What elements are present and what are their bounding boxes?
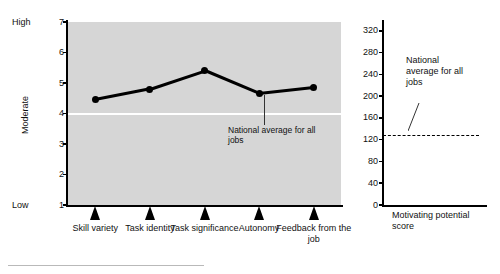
mps-y-tick-mark-40 xyxy=(379,182,384,184)
y-tick-mark-6 xyxy=(63,52,67,54)
y-tick-mark-5 xyxy=(63,82,67,84)
x-axis-label-feedback-from-the-job: Feedback from the job xyxy=(276,223,352,245)
data-point-marker xyxy=(146,86,153,93)
mps-y-tick-label-0: 0 xyxy=(350,201,378,210)
mps-y-tick-mark-200 xyxy=(379,95,384,97)
mps-national-average-dashed-line xyxy=(383,135,479,136)
y-tick-label-6: 6 xyxy=(50,48,64,57)
mps-y-tick-label-160: 160 xyxy=(350,113,378,122)
axis-anchor-high: High xyxy=(12,18,48,27)
x-axis-pointer-arrow xyxy=(145,206,155,220)
y-tick-label-4: 4 xyxy=(50,109,64,118)
y-tick-mark-3 xyxy=(63,143,67,145)
line-segment xyxy=(95,88,150,102)
job-characteristics-chart: 7654321 High Low Moderate Skill varietyT… xyxy=(0,0,350,274)
x-axis-pointer-arrow xyxy=(200,206,210,220)
mps-y-tick-mark-120 xyxy=(379,139,384,141)
mps-y-tick-label-120: 120 xyxy=(350,135,378,144)
y-tick-label-5: 5 xyxy=(50,79,64,88)
mps-y-tick-mark-160 xyxy=(379,117,384,119)
mps-x-axis-line xyxy=(382,205,487,207)
mps-y-tick-mark-0 xyxy=(379,204,384,206)
mps-x-axis-label: Motivating potential score xyxy=(392,210,476,232)
national-average-reference-line xyxy=(68,113,341,115)
y-tick-mark-2 xyxy=(63,174,67,176)
mps-y-axis-line xyxy=(382,20,384,207)
y-tick-label-7: 7 xyxy=(50,18,64,27)
mps-y-tick-label-200: 200 xyxy=(350,92,378,101)
mps-y-tick-mark-240 xyxy=(379,74,384,76)
y-tick-mark-1 xyxy=(63,204,67,206)
mps-y-tick-mark-280 xyxy=(379,52,384,54)
mps-y-tick-label-280: 280 xyxy=(350,48,378,57)
x-axis-pointer-arrow xyxy=(254,206,264,220)
callout-leader-line xyxy=(264,95,265,125)
plot-background xyxy=(68,22,341,205)
y-tick-mark-7 xyxy=(63,21,67,23)
line-segment xyxy=(149,69,205,90)
mps-y-tick-label-240: 240 xyxy=(350,70,378,79)
y-tick-label-3: 3 xyxy=(50,140,64,149)
y-tick-label-1: 1 xyxy=(50,201,64,210)
mps-y-tick-mark-320 xyxy=(379,30,384,32)
national-average-callout: National average for all jobs xyxy=(228,125,320,145)
footer-rule xyxy=(8,265,204,266)
mps-callout-leader-line xyxy=(408,103,420,131)
data-point-marker xyxy=(92,96,99,103)
mps-y-tick-mark-80 xyxy=(379,161,384,163)
y-tick-mark-4 xyxy=(63,113,67,115)
mps-y-tick-label-40: 40 xyxy=(350,179,378,188)
figure-root: 7654321 High Low Moderate Skill varietyT… xyxy=(0,0,500,274)
mps-national-average-callout: National average for all jobs xyxy=(406,55,466,88)
mps-y-tick-label-80: 80 xyxy=(350,157,378,166)
axis-anchor-low: Low xyxy=(12,201,48,210)
motivating-potential-score-chart: 32028024020016012080400 National average… xyxy=(350,0,500,274)
x-axis-pointer-arrow xyxy=(90,206,100,220)
data-point-marker xyxy=(256,90,263,97)
x-axis-pointer-arrow xyxy=(309,206,319,220)
line-segment xyxy=(204,69,260,95)
y-tick-label-2: 2 xyxy=(50,170,64,179)
mps-y-tick-label-320: 320 xyxy=(350,26,378,35)
data-point-marker xyxy=(310,84,317,91)
axis-anchor-moderate: Moderate xyxy=(20,82,30,148)
line-segment xyxy=(259,86,314,95)
